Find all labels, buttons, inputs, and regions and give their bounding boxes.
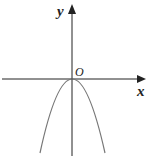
y-axis-label: y xyxy=(55,3,64,19)
x-axis-arrow-icon xyxy=(137,75,146,83)
x-axis-label: x xyxy=(136,83,145,99)
coordinate-graph: y x O xyxy=(0,0,154,166)
y-axis-arrow-icon xyxy=(68,4,76,14)
origin-label: O xyxy=(75,65,84,79)
